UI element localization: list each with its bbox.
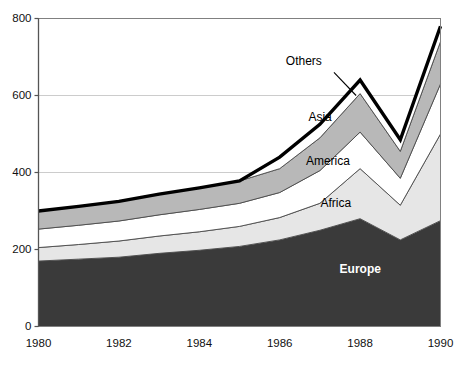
series-label-america: America	[306, 154, 350, 168]
x-tick-label: 1986	[263, 337, 297, 349]
y-tick-label: 0	[25, 320, 31, 332]
series-label-europe: Europe	[340, 262, 381, 276]
y-tick-label: 800	[12, 12, 31, 24]
others-leader-line	[334, 72, 356, 95]
x-tick-label: 1990	[424, 337, 458, 349]
x-tick-label: 1980	[22, 337, 56, 349]
series-label-asia: Asia	[308, 110, 331, 124]
x-tick-label: 1984	[182, 337, 216, 349]
y-tick-label: 400	[12, 166, 31, 178]
series-label-africa: Africa	[320, 196, 351, 210]
x-tick-label: 1982	[102, 337, 136, 349]
x-tick-label: 1988	[343, 337, 377, 349]
series-label-others: Others	[286, 54, 322, 68]
y-tick-label: 200	[12, 243, 31, 255]
y-tick-label: 600	[12, 89, 31, 101]
area-series-group	[39, 26, 441, 326]
